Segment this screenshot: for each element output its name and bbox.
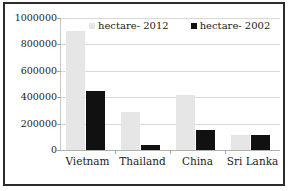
y-axis-tick — [57, 124, 61, 125]
x-axis-label-china: China — [170, 156, 225, 167]
y-axis-tick-label: 800000 — [21, 39, 57, 49]
x-axis-label-thailand: Thailand — [115, 156, 170, 167]
x-axis-tick — [225, 150, 226, 154]
x-axis-label-vietnam: Vietnam — [60, 156, 115, 167]
gridline — [60, 44, 280, 45]
y-axis-tick-label: 200000 — [21, 119, 57, 129]
y-axis-tick — [57, 18, 61, 19]
gridline — [60, 71, 280, 72]
bar-thailand-2012 — [121, 112, 140, 150]
legend-entry-2012[interactable]: hectare- 2012 — [89, 21, 169, 31]
y-axis-tick — [57, 150, 61, 151]
gridline — [60, 18, 280, 19]
bar-vietnam-2002 — [86, 91, 105, 150]
y-axis-tick — [57, 97, 61, 98]
x-axis-label-sri-lanka: Sri Lanka — [225, 156, 280, 167]
bar-sri-lanka-2002 — [251, 135, 270, 150]
plot-area — [60, 18, 280, 150]
y-axis-tick-label: 400000 — [21, 92, 57, 102]
y-axis-tick — [57, 71, 61, 72]
bar-sri-lanka-2012 — [231, 135, 250, 150]
chart-frame: 10000008000006000004000002000000 Vietnam… — [3, 2, 285, 186]
legend-swatch-icon — [191, 23, 197, 29]
y-axis-tick-label: 1000000 — [15, 13, 57, 23]
x-axis-labels: VietnamThailandChinaSri Lanka — [60, 156, 280, 176]
chart-plot-container: 10000008000006000004000002000000 Vietnam… — [5, 4, 283, 184]
bar-china-2002 — [196, 130, 215, 150]
x-axis-tick — [115, 150, 116, 154]
y-axis-tick — [57, 44, 61, 45]
bar-china-2012 — [176, 95, 195, 150]
legend-label: hectare- 2012 — [98, 21, 169, 31]
x-axis-tick — [170, 150, 171, 154]
legend-swatch-icon — [89, 23, 95, 29]
y-axis-labels: 10000008000006000004000002000000 — [5, 4, 57, 191]
bar-thailand-2002 — [141, 145, 160, 150]
legend-label: hectare- 2002 — [200, 21, 271, 31]
bar-vietnam-2012 — [66, 31, 85, 150]
chart-legend: hectare- 2012hectare- 2002 — [89, 21, 270, 31]
y-axis-tick-label: 600000 — [21, 66, 57, 76]
legend-entry-2002[interactable]: hectare- 2002 — [191, 21, 271, 31]
